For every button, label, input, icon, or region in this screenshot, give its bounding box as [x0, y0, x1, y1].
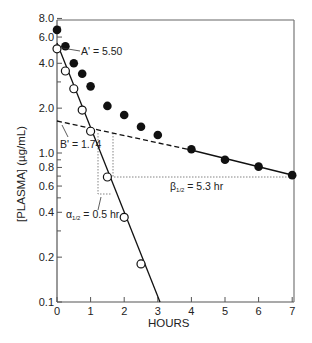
filled-data-point [221, 156, 230, 165]
y-tick-label: 0.8 [39, 161, 54, 173]
fit-lines [57, 43, 292, 302]
filled-data-point [78, 70, 87, 79]
x-tick-label: 5 [222, 305, 228, 317]
filled-data-point [254, 162, 263, 171]
residual-points [53, 45, 145, 268]
filled-data-point [154, 131, 163, 140]
y-axis-title: [PLASMA] (µg/mL) [15, 126, 27, 222]
y-tick-label: 8.0 [39, 12, 54, 24]
filled-data-point [187, 145, 196, 154]
open-data-point [78, 106, 86, 114]
y-tick-label: 2.0 [39, 102, 54, 114]
y-tick-label: 0.6 [39, 180, 54, 192]
x-tick-label: 0 [54, 305, 60, 317]
alpha-half-life-annotation: α1/2 = 0.5 hr [66, 197, 120, 221]
a-prime-label: A' = 5.50 [81, 45, 123, 57]
open-data-point [137, 260, 145, 268]
beta-half-life-annotation: β1/2 = 5.3 hr [170, 180, 224, 193]
y-tick-label: 0.2 [39, 251, 54, 263]
y-tick-label: 0.1 [39, 296, 54, 308]
y-tick-label: 4.0 [39, 57, 54, 69]
filled-data-point [86, 82, 95, 91]
y-axis-ticks: 0.10.20.40.60.81.02.04.06.08.0 [39, 12, 62, 308]
filled-data-point [103, 102, 112, 111]
open-data-point [87, 127, 95, 135]
beta-half-life-label: β1/2 = 5.3 hr [170, 180, 224, 193]
open-data-point [103, 173, 111, 181]
x-tick-label: 7 [289, 305, 295, 317]
open-data-point [70, 85, 78, 93]
open-data-point [120, 213, 128, 221]
filled-data-point [288, 171, 297, 180]
b-prime-annotation: B' = 1.74 [60, 125, 102, 150]
filled-data-point [53, 26, 62, 35]
pharmacokinetic-chart: 0.10.20.40.60.81.02.04.06.08.0 01234567 … [0, 0, 312, 343]
alpha-half-life-label: α1/2 = 0.5 hr [66, 208, 120, 221]
x-axis-ticks: 01234567 [54, 297, 295, 317]
x-tick-label: 2 [121, 305, 127, 317]
x-tick-label: 1 [88, 305, 94, 317]
y-tick-label: 1.0 [39, 147, 54, 159]
open-data-point [61, 67, 69, 75]
open-data-point [53, 45, 61, 53]
filled-data-point [120, 111, 129, 120]
x-tick-label: 6 [256, 305, 262, 317]
filled-data-point [137, 122, 146, 131]
x-tick-label: 4 [188, 305, 194, 317]
x-axis-title: HOURS [148, 317, 190, 329]
y-tick-label: 0.4 [39, 206, 54, 218]
beta-phase-line [191, 150, 292, 175]
plot-frame [57, 20, 294, 302]
x-tick-label: 3 [155, 305, 161, 317]
filled-data-point [70, 59, 79, 68]
y-tick-label: 6.0 [39, 31, 54, 43]
a-prime-annotation: A' = 5.50 [62, 45, 123, 57]
b-prime-label: B' = 1.74 [60, 138, 102, 150]
